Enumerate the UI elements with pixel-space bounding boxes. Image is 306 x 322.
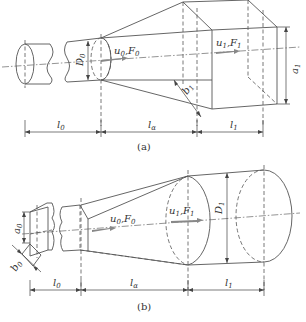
rectangular-outlet-duct [183, 0, 277, 126]
svg-text:a0: a0 [11, 223, 24, 234]
dimension-b0: b0 [8, 244, 41, 274]
dim-l1-a: l1 [230, 119, 238, 132]
dimension-a1: a1 [277, 27, 302, 104]
flow-arrow-u0-F0-a: u0,F0 [101, 45, 140, 62]
svg-text:u1,F1: u1,F1 [169, 205, 195, 218]
dimension-a0: a0 [11, 212, 30, 243]
svg-text:b0: b0 [8, 258, 25, 274]
circular-outlet-duct [166, 165, 292, 290]
dimension-D0: D0 [74, 41, 90, 80]
caption-a: (a) [137, 141, 151, 152]
center-axis-b [22, 213, 300, 234]
dim-la-a: lα [148, 119, 156, 132]
dim-l0-b: l0 [53, 277, 61, 290]
svg-text:D1: D1 [213, 202, 226, 216]
flow-arrow-u1-F1-b: u1,F1 [169, 205, 203, 223]
svg-text:b1: b1 [180, 81, 197, 97]
caption-b: (b) [137, 301, 151, 312]
svg-text:u0,F0: u0,F0 [114, 45, 140, 58]
svg-text:a1: a1 [289, 64, 302, 74]
dim-l0-a: l0 [57, 119, 65, 132]
inlet-square-duct-right [60, 198, 89, 290]
flow-arrow-u0-F0-b: u0,F0 [92, 213, 136, 232]
flow-arrow-u1-F1-a: u1,F1 [216, 37, 242, 54]
inlet-square-duct-left [30, 203, 55, 258]
svg-text:u1,F1: u1,F1 [216, 37, 242, 50]
length-dimensions-b: l0 lα l1 [30, 277, 264, 296]
dimension-D1: D1 [213, 173, 229, 263]
inlet-pipe-left-segment [16, 40, 53, 88]
dimension-b1: b1 [174, 80, 201, 117]
diffuser-diagram: D0 u0,F0 [0, 0, 306, 322]
figure-a: D0 u0,F0 [2, 0, 302, 152]
length-dimensions-a: l0 lα l1 [25, 119, 263, 137]
dim-l1-b: l1 [225, 277, 233, 290]
dim-la-b: lα [130, 277, 138, 290]
center-axis-a [2, 47, 300, 67]
figure-b: a0 b0 u0,F0 [8, 165, 300, 312]
svg-text:u0,F0: u0,F0 [110, 213, 136, 226]
svg-text:D0: D0 [74, 53, 87, 67]
